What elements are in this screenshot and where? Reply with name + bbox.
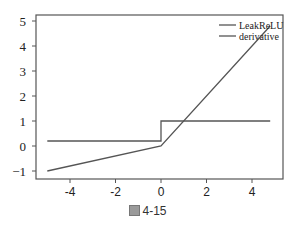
caption-label: 4-15 — [142, 204, 166, 218]
figure-caption: 4-15 — [0, 204, 296, 218]
y-axis: −1012345 — [12, 14, 36, 179]
y-tick-label: 1 — [20, 114, 27, 129]
legend-label: derivative — [239, 31, 280, 42]
y-tick-label: 3 — [20, 64, 27, 79]
leaky-relu-chart: −1012345 -4-2024 LeakReLUderivative — [0, 0, 296, 238]
figure-icon — [129, 205, 140, 216]
x-tick-label: 4 — [249, 185, 256, 199]
x-tick-label: -4 — [65, 185, 76, 199]
y-tick-label: 5 — [20, 14, 27, 29]
y-tick-label: −1 — [12, 164, 26, 179]
x-tick-label: 2 — [203, 185, 210, 199]
x-axis: -4-2024 — [65, 179, 256, 199]
x-tick-label: -2 — [110, 185, 121, 199]
y-tick-label: 2 — [20, 89, 27, 104]
x-tick-label: 0 — [158, 185, 165, 199]
y-tick-label: 0 — [20, 139, 27, 154]
y-tick-label: 4 — [20, 39, 27, 54]
legend-label: LeakReLU — [239, 20, 284, 31]
